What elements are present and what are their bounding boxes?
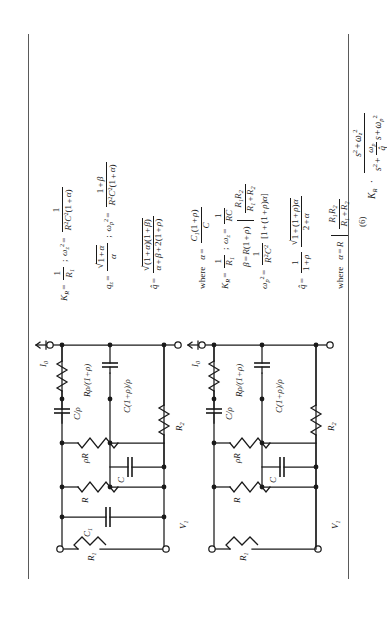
label-C-over-rho: C/ρ [72, 406, 82, 420]
circuit-a: R1 C1 R ρR [44, 313, 194, 563]
label-V1: V1 [330, 520, 341, 529]
resistor-R1 [226, 537, 258, 549]
label-R-rho-1plusrho: Rρ/(1+ρ) [234, 364, 244, 398]
resistor-R1 [74, 537, 106, 549]
label-C1: C1 [82, 528, 93, 537]
transfer-function: KR · s2+ωz2 s2+ωpq̂s+ωp2 [352, 112, 386, 199]
terminal-in-top [209, 546, 215, 552]
label-R1: R1 [86, 552, 97, 562]
terminal-out-top [47, 342, 53, 348]
page-rule-top [28, 34, 29, 579]
label-R2: R2 [326, 422, 337, 432]
label-C: C [268, 476, 278, 483]
terminal-in-bottom [163, 546, 169, 552]
eq-a1: KR= 1R1 ; ωz2= 1 R2C2(1+α) [52, 186, 75, 301]
label-R-rho-1plusrho: Rρ/(1+ρ) [82, 364, 92, 398]
label-C-over-rho: C/ρ [224, 406, 234, 420]
equation-number: (6) [357, 217, 367, 228]
eq-b1: KR= 1R1 ; ωz= 1RC [214, 206, 235, 289]
eq-a4: where α= C1(1+ρ) C [190, 206, 211, 289]
terminal-out-bottom [327, 342, 333, 348]
label-I0: I0 [38, 360, 49, 368]
label-C: C [116, 476, 126, 483]
label-R: R [80, 497, 90, 504]
eq-b4: where α=R R1R2 R1+R2 [328, 198, 350, 289]
page-rule-bottom [348, 34, 349, 579]
eq-b3: q̂= 11+ρ 1+(1+ρ)α 2+α [290, 195, 311, 289]
circuit-b: R1 R ρR C C/ρ [196, 313, 346, 563]
label-R2: R2 [174, 422, 185, 432]
eq-a2: qz= 1+α α ; ωp2= 1+β R2C2(1+α) [96, 161, 118, 289]
terminal-out-top [199, 342, 205, 348]
label-C-1plusrho-rho: C(1+ρ)/ρ [122, 379, 132, 413]
label-R: R [232, 497, 242, 504]
eq-b2: ωp2= 1 R2C2 [1+(1+ρ)α] [252, 193, 274, 289]
label-V1: V1 [178, 520, 189, 529]
label-R1: R1 [238, 552, 249, 562]
label-rhoR: ρR [80, 453, 90, 464]
label-C-1plusrho-rho: C(1+ρ)/ρ [274, 379, 284, 413]
terminal-out-bottom [175, 342, 181, 348]
label-rhoR: ρR [232, 453, 242, 464]
eq-a3: q̂= (1+α)(1+β) α+β+2(1+ρ) [142, 215, 163, 289]
terminal-in-top [57, 546, 63, 552]
